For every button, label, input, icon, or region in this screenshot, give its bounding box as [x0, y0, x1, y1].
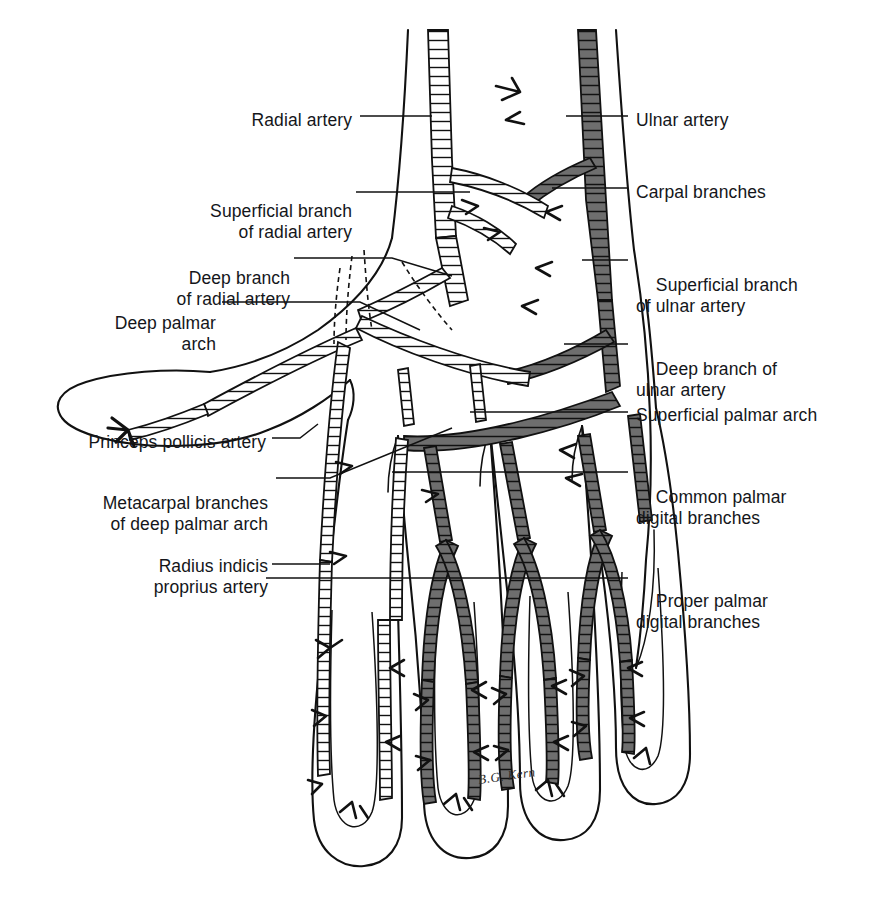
label-radius-indicis-proprius-artery: Radius indicisproprius artery: [116, 535, 268, 619]
label-common-palmar-digital-branches: Common palmardigital branches: [636, 466, 787, 550]
label-carpal-branches: Carpal branches: [636, 182, 766, 203]
label-deep-palmar-arch: Deep palmararch: [36, 292, 216, 376]
label-princeps-pollicis-artery: Princeps pollicis artery: [36, 432, 266, 453]
label-superficial-palmar-arch: Superficial palmar arch: [636, 405, 817, 426]
label-ulnar-artery: Ulnar artery: [636, 110, 729, 131]
label-radial-artery: Radial artery: [222, 110, 352, 131]
anatomical-figure: Radial artery Superficial branchof radia…: [0, 0, 878, 897]
label-superficial-branch-of-ulnar-artery: Superficial branchof ulnar artery: [636, 254, 798, 338]
label-proper-palmar-digital-branches: Proper palmardigital branches: [636, 570, 768, 654]
